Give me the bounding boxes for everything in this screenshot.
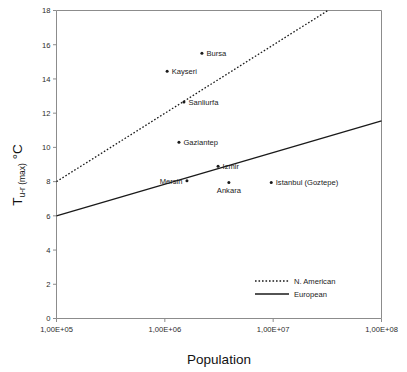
x-tick-label: 1,00E+07: [257, 325, 290, 334]
data-point-label: Ankara: [217, 186, 242, 195]
x-tick-label: 1,00E+06: [148, 325, 181, 334]
data-point-label: Gaziantep: [183, 138, 218, 147]
data-point-marker: [270, 181, 273, 184]
data-point-marker: [166, 70, 169, 73]
data-point-marker: [217, 165, 220, 168]
legend-label: European: [294, 290, 327, 299]
scatter-chart: 024681012141618 1,00E+051,00E+061,00E+07…: [0, 0, 407, 372]
y-tick-label: 10: [42, 143, 50, 152]
data-point-marker: [185, 179, 188, 182]
y-tick-label: 16: [42, 41, 50, 50]
data-point-label: Kayseri: [172, 67, 198, 76]
data-point-label: Mersin: [160, 177, 183, 186]
data-point-marker: [182, 101, 185, 104]
y-tick-label: 12: [42, 109, 50, 118]
y-tick-label: 14: [42, 75, 50, 84]
x-axis-title: Population: [187, 352, 251, 367]
legend-label: N. American: [294, 277, 335, 286]
y-tick-label: 2: [46, 280, 50, 289]
y-tick-label: 0: [46, 314, 50, 323]
chart-canvas: 024681012141618 1,00E+051,00E+061,00E+07…: [0, 0, 407, 372]
chart-background: [0, 0, 407, 372]
data-point-marker: [200, 52, 203, 55]
y-tick-label: 4: [46, 246, 50, 255]
data-point-label: Sanliurfa: [188, 98, 219, 107]
y-tick-label: 8: [46, 177, 50, 186]
data-point-marker: [227, 181, 230, 184]
x-tick-label: 1,00E+08: [365, 325, 398, 334]
data-point-marker: [177, 141, 180, 144]
data-point-label: Istanbul (Goztepe): [276, 178, 339, 187]
data-point-label: Izmir: [223, 162, 240, 171]
x-tick-label: 1,00E+05: [40, 325, 73, 334]
data-point-label: Bursa: [206, 49, 227, 58]
y-tick-label: 18: [42, 6, 50, 15]
y-tick-label: 6: [46, 212, 50, 221]
